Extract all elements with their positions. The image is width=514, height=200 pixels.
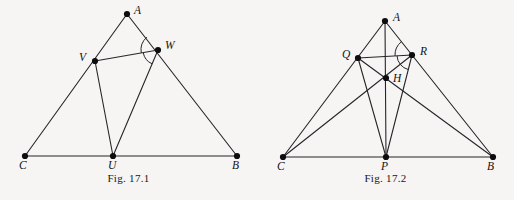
- figure-page: Fig. 17.1 ACBUVW Fig. 17.2 ACBPQRH: [0, 0, 514, 200]
- segment-WU: [113, 50, 158, 156]
- vertex-label-U: U: [108, 160, 116, 172]
- segment-CA: [25, 14, 127, 156]
- figure-17-2-caption: Fig. 17.2: [257, 172, 514, 184]
- figure-17-1-drawing: [0, 0, 257, 200]
- segment-VU: [95, 61, 113, 156]
- vertex-label-A: A: [134, 5, 141, 17]
- segment-RP: [386, 55, 412, 157]
- figure-17-1-caption: Fig. 17.1: [0, 172, 257, 184]
- vertex-label-C: C: [277, 161, 285, 173]
- vertex-label-H: H: [393, 73, 401, 85]
- vertex-label-A: A: [393, 12, 400, 24]
- vertex-label-P: P: [381, 161, 388, 173]
- vertex-label-C: C: [19, 160, 27, 172]
- angle-arc-at-W: [143, 53, 152, 64]
- vertex-A: [124, 11, 130, 17]
- angle-arc-at-W: [141, 37, 147, 53]
- vertex-W: [155, 47, 161, 53]
- vertex-R: [409, 52, 415, 58]
- segment-QP: [358, 58, 386, 157]
- vertex-Q: [355, 55, 361, 61]
- vertex-label-V: V: [79, 52, 86, 64]
- angle-arc-at-R: [395, 42, 401, 56]
- figure-17-2: Fig. 17.2 ACBPQRH: [257, 0, 514, 200]
- vertex-label-B: B: [487, 161, 494, 173]
- figure-17-1: Fig. 17.1 ACBUVW: [0, 0, 257, 200]
- segment-VW: [95, 50, 158, 61]
- vertex-label-W: W: [165, 40, 175, 52]
- vertex-label-Q: Q: [342, 49, 350, 61]
- vertex-A: [382, 18, 388, 24]
- vertex-H: [383, 75, 389, 81]
- vertex-label-R: R: [420, 46, 427, 58]
- vertex-V: [92, 58, 98, 64]
- segment-AP: [385, 21, 386, 157]
- vertex-label-B: B: [232, 160, 239, 172]
